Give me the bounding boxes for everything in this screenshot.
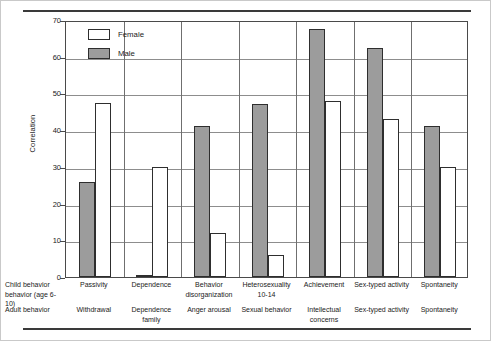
legend-label: Female <box>118 30 144 39</box>
legend-label: Male <box>118 49 135 58</box>
child-behavior-label-7: Spontaneity <box>399 280 479 290</box>
bar-male-2 <box>136 275 152 277</box>
bar-male-3 <box>194 126 210 277</box>
y-axis-tick-label: 50 <box>37 90 61 98</box>
legend-swatch-male <box>88 48 110 59</box>
child-behavior-label-line: Spontaneity <box>399 280 479 290</box>
legend-swatch-female <box>88 29 110 40</box>
adult-behavior-label-7: Spontaneity <box>399 305 479 315</box>
bar-female-4 <box>268 255 284 277</box>
scanned-page: Correlation 706050403020100 FemaleMale C… <box>0 0 491 341</box>
grouped-bar-chart: Correlation 706050403020100 FemaleMale C… <box>1 1 491 341</box>
y-axis-tick-mark <box>60 278 65 279</box>
bar-male-6 <box>367 48 383 277</box>
legend-item-female: Female <box>88 26 144 42</box>
bar-female-5 <box>325 101 341 277</box>
bar-female-3 <box>210 233 226 277</box>
bar-female-7 <box>440 167 456 277</box>
adult-behavior-label-line: concerns <box>284 315 364 325</box>
bar-male-1 <box>79 182 95 277</box>
gridline <box>66 95 467 96</box>
bar-female-1 <box>95 103 111 277</box>
bar-female-6 <box>383 119 399 277</box>
adult-behavior-label-line: Spontaneity <box>399 305 479 315</box>
group-separator <box>239 22 240 277</box>
legend: FemaleMale <box>88 26 144 64</box>
group-separator <box>296 22 297 277</box>
y-axis-title: Correlation <box>28 89 37 179</box>
plot-area: FemaleMale <box>65 21 468 278</box>
group-separator <box>181 22 182 277</box>
child-behavior-label-line: 10-14 <box>227 290 307 300</box>
bar-female-2 <box>152 167 168 277</box>
y-axis-tick-label: 20 <box>37 201 61 209</box>
y-axis-tick-label: 70 <box>37 17 61 25</box>
y-axis-tick-label: 30 <box>37 164 61 172</box>
legend-item-male: Male <box>88 45 144 61</box>
bar-male-4 <box>252 104 268 277</box>
group-separator <box>411 22 412 277</box>
group-separator <box>354 22 355 277</box>
y-axis-tick-label: 60 <box>37 54 61 62</box>
bar-male-5 <box>309 29 325 277</box>
y-axis-tick-label: 10 <box>37 237 61 245</box>
y-axis-tick-label: 40 <box>37 127 61 135</box>
bar-male-7 <box>424 126 440 277</box>
adult-behavior-label-line: family <box>111 315 191 325</box>
